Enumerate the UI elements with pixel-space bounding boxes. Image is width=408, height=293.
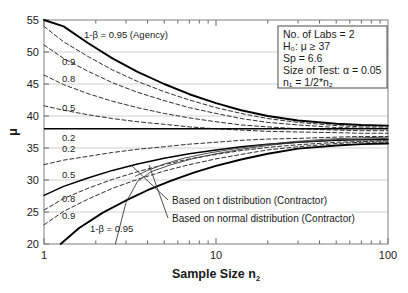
legend-line-n1: n₁ = 1/2*n₂ xyxy=(283,76,333,88)
curve-label-upper: 0.2 xyxy=(62,132,75,143)
x-tick-label: 10 xyxy=(210,249,222,261)
curve-label-upper: 1-β = 0.95 (Agency) xyxy=(84,29,168,40)
x-axis-title-subscript: 2 xyxy=(256,274,260,283)
x-axis-title: Sample Size n2 xyxy=(172,267,260,283)
curve-label-lower: 0.5 xyxy=(62,169,75,180)
y-tick-label: 30 xyxy=(27,174,39,186)
curve-label-upper: 0.5 xyxy=(62,102,75,113)
chart-annotation: Based on normal distribution (Contractor… xyxy=(172,213,355,224)
chart-annotation: Based on t distribution (Contractor) xyxy=(172,195,327,206)
power-curve-chart: 2025303540455055 110100 1-β = 0.95 (Agen… xyxy=(0,0,408,293)
curve-label-lower: 0.8 xyxy=(62,193,75,204)
y-tick-label: 55 xyxy=(27,14,39,26)
y-tick-label: 50 xyxy=(27,46,39,58)
y-tick-label: 20 xyxy=(27,238,39,250)
y-tick-label: 25 xyxy=(27,206,39,218)
y-tick-label: 40 xyxy=(27,110,39,122)
x-tick-label: 100 xyxy=(379,249,397,261)
curve-label-lower: 0.9 xyxy=(62,210,75,221)
chart-root: 2025303540455055 110100 1-β = 0.95 (Agen… xyxy=(0,0,408,293)
curve-label-lower: 0.2 xyxy=(62,143,75,154)
x-tick-label: 1 xyxy=(41,249,47,261)
y-tick-label: 45 xyxy=(27,78,39,90)
legend-line-alpha: Size of Test: α = 0.05 xyxy=(283,64,382,76)
x-axis-title-main: Sample Size n xyxy=(172,267,256,281)
curve-label-upper: 0.8 xyxy=(62,73,75,84)
legend-line-labs: No. of Labs = 2 xyxy=(283,28,355,40)
curve-label-lower: 1-β = 0.95 xyxy=(90,223,133,234)
curve-label-upper: 0.9 xyxy=(62,56,75,67)
y-tick-label: 35 xyxy=(27,142,39,154)
legend-line-h0: H₀: μ ≥ 37 xyxy=(283,40,330,52)
y-axis-title: μ xyxy=(6,128,20,136)
legend-line-sp: Sp = 6.6 xyxy=(283,52,323,64)
